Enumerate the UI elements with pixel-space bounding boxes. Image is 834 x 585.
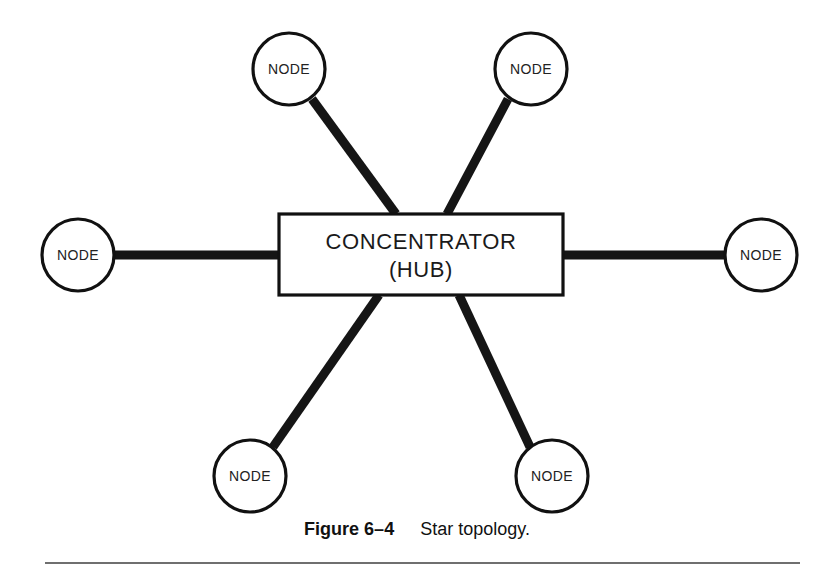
- caption-divider-rule: [45, 562, 800, 564]
- figure-star-topology: CONCENTRATOR (HUB) NODE NODE NODE NODE N…: [0, 0, 834, 585]
- figure-caption-block: Figure 6–4Star topology.: [0, 519, 834, 585]
- link-top-left-to-hub: [312, 99, 396, 214]
- figure-caption: Figure 6–4Star topology.: [0, 519, 834, 540]
- link-bottom-right-to-hub: [459, 295, 530, 447]
- node-top-left: NODE: [253, 33, 325, 105]
- hub-node: CONCENTRATOR (HUB): [279, 214, 563, 295]
- node-bottom-right: NODE: [516, 440, 588, 512]
- node-label: NODE: [740, 247, 782, 263]
- link-top-right-to-hub: [447, 99, 508, 214]
- node-label: NODE: [57, 247, 99, 263]
- hub-label-line2: (HUB): [389, 257, 453, 282]
- node-top-right: NODE: [495, 33, 567, 105]
- node-label: NODE: [268, 61, 310, 77]
- node-label: NODE: [510, 61, 552, 77]
- node-label: NODE: [229, 468, 271, 484]
- figure-caption-title: Star topology.: [420, 519, 530, 539]
- node-left: NODE: [42, 219, 114, 291]
- hub-label-line1: CONCENTRATOR: [326, 229, 517, 254]
- link-bottom-left-to-hub: [273, 295, 379, 447]
- node-bottom-left: NODE: [214, 440, 286, 512]
- hub-rectangle: [279, 214, 563, 295]
- star-topology-diagram: CONCENTRATOR (HUB) NODE NODE NODE NODE N…: [0, 0, 834, 520]
- node-right: NODE: [725, 219, 797, 291]
- node-label: NODE: [531, 468, 573, 484]
- figure-caption-label: Figure 6–4: [304, 519, 394, 539]
